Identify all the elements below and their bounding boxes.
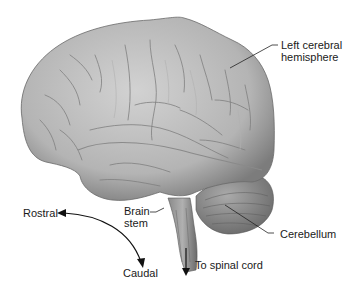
label-left-cerebral-hemisphere-line1: Left cerebral	[281, 39, 342, 51]
label-rostral: Rostral	[23, 207, 58, 219]
leader-line-brain-stem	[150, 208, 164, 212]
brain-stem	[168, 198, 197, 272]
label-brain-stem-line1: Brain	[124, 205, 150, 217]
label-caudal: Caudal	[123, 267, 158, 279]
label-to-spinal-cord: To spinal cord	[195, 259, 263, 271]
label-brain-stem: Brain stem	[124, 205, 150, 229]
label-cerebellum: Cerebellum	[280, 228, 336, 240]
left-cerebral-hemisphere	[21, 17, 274, 200]
label-left-cerebral-hemisphere: Left cerebral hemisphere	[281, 39, 342, 63]
label-brain-stem-line2: stem	[124, 217, 150, 229]
label-left-cerebral-hemisphere-line2: hemisphere	[281, 51, 342, 63]
